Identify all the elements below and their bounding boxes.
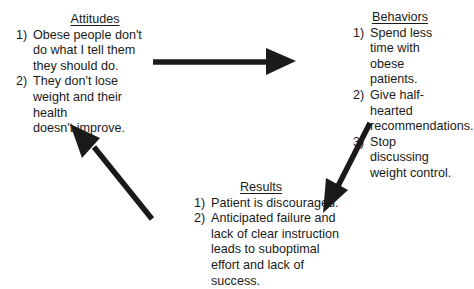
attitudes-title: Attitudes — [15, 12, 175, 28]
item-text-line: Stop discussing — [370, 135, 453, 166]
item-number: 1) — [16, 28, 27, 44]
item-text-line: they should do. — [33, 59, 156, 75]
item-text-line: Obese people don't — [33, 28, 156, 44]
behaviors-item-2: 2) Give half-hearted recommendations. — [353, 88, 453, 135]
item-number: 2) — [353, 88, 364, 104]
results-item-2: 2) Anticipated failure and lack of clear… — [194, 211, 344, 289]
item-text-line: success. — [211, 274, 344, 289]
item-text-line: lack of clear instruction — [211, 227, 344, 243]
arrow-attitudes-to-behaviors — [153, 48, 296, 75]
behaviors-title: Behaviors — [350, 10, 450, 26]
item-text-line: doesn't improve. — [33, 121, 156, 137]
results-item-1: 1) Patient is discouraged. — [194, 196, 344, 212]
behaviors-list: 1) Spend less time with obese patients. … — [353, 26, 453, 182]
item-text-line: recommendations. — [370, 119, 453, 135]
item-text-line: leads to suboptimal — [211, 242, 344, 258]
attitudes-node: Attitudes 1) Obese people don't do what … — [16, 12, 156, 137]
item-text-line: obese patients. — [370, 57, 453, 88]
item-text-line: weight control. — [370, 166, 453, 182]
item-text-line: Patient is discouraged. — [211, 196, 344, 212]
item-text-line: Spend less time with — [370, 26, 453, 57]
item-text-line: weight and their health — [33, 90, 156, 121]
item-number: 2) — [16, 74, 27, 90]
item-number: 2) — [194, 211, 205, 227]
item-number: 3) — [353, 135, 364, 151]
results-list: 1) Patient is discouraged. 2) Anticipate… — [194, 196, 344, 289]
item-text-line: effort and lack of — [211, 258, 344, 274]
attitudes-list: 1) Obese people don't do what I tell the… — [16, 28, 156, 137]
attitudes-item-1: 1) Obese people don't do what I tell the… — [16, 28, 156, 75]
attitudes-item-2: 2) They don't lose weight and their heal… — [16, 74, 156, 136]
results-title: Results — [194, 180, 328, 196]
arrow-results-to-attitudes — [70, 124, 152, 219]
item-text-line: They don't lose — [33, 74, 156, 90]
behaviors-node: Behaviors 1) Spend less time with obese … — [353, 10, 453, 182]
behaviors-item-3: 3) Stop discussing weight control. — [353, 135, 453, 182]
item-text-line: Anticipated failure and — [211, 211, 344, 227]
item-text-line: do what I tell them — [33, 43, 156, 59]
item-number: 1) — [194, 196, 205, 212]
results-node: Results 1) Patient is discouraged. 2) An… — [194, 180, 344, 289]
item-number: 1) — [353, 26, 364, 42]
behaviors-item-1: 1) Spend less time with obese patients. — [353, 26, 453, 88]
item-text-line: Give half-hearted — [370, 88, 453, 119]
